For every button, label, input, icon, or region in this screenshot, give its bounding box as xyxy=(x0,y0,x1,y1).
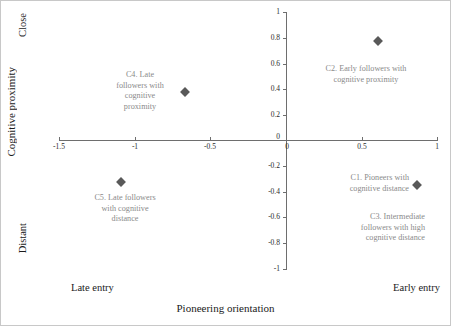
x-tick-mark xyxy=(362,137,363,141)
y-tick-mark xyxy=(283,115,287,116)
x-tick-label: -0.5 xyxy=(204,143,216,151)
y-tick-label: 1 xyxy=(276,8,280,16)
cluster-label-c2: C2. Early followers with cognitive proxi… xyxy=(296,64,436,85)
y-tick-label: 0 xyxy=(276,133,280,141)
y-axis-top-anchor: Close xyxy=(17,13,28,37)
scatter-plot-figure: -1.5 -1 -0.5 0 0.5 1 1 0.8 0.6 0.4 0.2 0… xyxy=(0,0,451,326)
x-axis-line xyxy=(59,140,437,141)
y-tick-mark xyxy=(283,12,287,13)
y-tick-label: 0.2 xyxy=(271,111,280,119)
y-tick-mark xyxy=(283,38,287,39)
y-tick-mark xyxy=(283,64,287,65)
x-tick-label: 0.5 xyxy=(357,143,366,151)
y-tick-label: 0.4 xyxy=(271,85,280,93)
y-tick-mark xyxy=(283,140,287,141)
x-tick-label: 0 xyxy=(285,143,289,151)
data-point-c5[interactable] xyxy=(116,177,126,187)
y-tick-label: 0.6 xyxy=(271,60,280,68)
x-tick-mark xyxy=(135,137,136,141)
y-tick-label: -1 xyxy=(274,265,280,273)
y-tick-label: 0.8 xyxy=(271,34,280,42)
y-axis-bottom-anchor: Distant xyxy=(17,223,28,253)
y-axis-title: Cognitive proximity xyxy=(5,67,17,157)
x-tick-label: -1 xyxy=(132,143,138,151)
cluster-label-c1: C1. Pioneers with cognitive distance xyxy=(279,173,409,194)
cluster-label-c3: C3. Intermediate followers with high cog… xyxy=(285,212,425,244)
y-tick-label: -0.2 xyxy=(268,162,280,170)
y-tick-mark xyxy=(283,269,287,270)
x-tick-label: -1.5 xyxy=(53,143,65,151)
x-tick-mark xyxy=(59,137,60,141)
y-tick-label: -0.8 xyxy=(268,239,280,247)
y-tick-label: -0.6 xyxy=(268,213,280,221)
x-axis-right-anchor: Early entry xyxy=(393,282,440,293)
x-axis-left-anchor: Late entry xyxy=(71,282,114,293)
x-tick-mark xyxy=(437,137,438,141)
data-point-c2[interactable] xyxy=(373,36,383,46)
data-point-c1[interactable] xyxy=(412,180,422,190)
y-tick-mark xyxy=(283,89,287,90)
y-tick-mark xyxy=(283,166,287,167)
cluster-label-c4: C4. Late followers with cognitive proxim… xyxy=(95,70,185,112)
cluster-label-c5: C5. Late followers with cognitive distan… xyxy=(70,193,180,225)
x-axis-title: Pioneering orientation xyxy=(176,302,274,314)
x-tick-label: 1 xyxy=(435,143,439,151)
x-tick-mark xyxy=(210,137,211,141)
